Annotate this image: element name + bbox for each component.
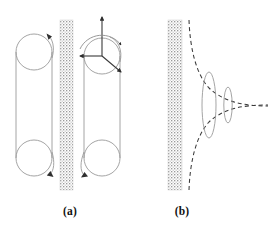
figure-canvas [0, 0, 273, 234]
panel-b [168, 20, 268, 190]
loop-right-bottom-circle [84, 140, 120, 176]
panel-b-caption: (b) [164, 205, 200, 217]
loop-left-top-circle [16, 34, 52, 70]
figure-root: (a) (b) [0, 0, 273, 234]
panel-b-dashed-curves [189, 20, 268, 190]
lower-hyperbola [189, 105, 268, 190]
loop-left-top-wrap [47, 35, 53, 58]
panel-a [16, 17, 121, 190]
pileup-loop-outer [202, 72, 216, 138]
loop-left-bottom-circle [16, 140, 52, 176]
upper-hyperbola [189, 20, 268, 106]
panel-b-pileup-ellipses [202, 72, 232, 138]
panel-a-stippled-wall [60, 20, 73, 190]
dislocation-loop-right [81, 37, 121, 176]
dislocation-loop-left [16, 34, 54, 176]
loop-left-bottom-arrowhead [47, 171, 54, 177]
panel-a-caption: (a) [52, 205, 88, 217]
panel-b-stippled-wall [168, 20, 182, 190]
pileup-loop-inner [224, 87, 232, 123]
